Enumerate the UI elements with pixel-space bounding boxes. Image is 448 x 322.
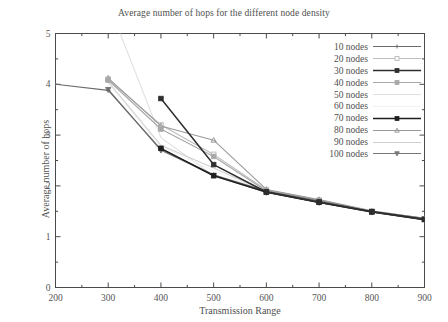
- legend-label: 70 nodes: [334, 113, 368, 123]
- legend-item-20-nodes: 20 nodes: [296, 53, 422, 65]
- legend-line-sample: [372, 77, 422, 88]
- legend-item-30-nodes: 30 nodes: [296, 65, 422, 77]
- legend-label: 40 nodes: [334, 78, 368, 88]
- legend-item-60-nodes: 60 nodes: [296, 100, 422, 112]
- series-marker: [53, 82, 58, 87]
- legend-label: 100 nodes: [329, 149, 368, 159]
- y-axis-label: Average number of hops: [35, 79, 53, 259]
- x-axis-label: Transmission Range: [55, 300, 425, 318]
- legend-line-sample: [372, 137, 422, 148]
- legend-item-100-nodes: 100 nodes: [296, 148, 422, 160]
- series-marker: [369, 210, 374, 215]
- series-marker: [159, 146, 164, 151]
- legend-line-sample: [372, 148, 422, 159]
- legend-label: 60 nodes: [334, 101, 368, 111]
- series-marker: [395, 57, 399, 61]
- y-tick-label: 5: [46, 29, 51, 39]
- legend-line-sample: [372, 113, 422, 124]
- series-marker: [317, 200, 322, 205]
- legend-line-sample: [372, 41, 422, 52]
- series-marker: [159, 127, 164, 132]
- legend-item-80-nodes: 80 nodes: [296, 124, 422, 136]
- chart-figure: Average number of hops for the different…: [0, 0, 448, 322]
- legend-item-40-nodes: 40 nodes: [296, 77, 422, 89]
- legend-label: 90 nodes: [334, 137, 368, 147]
- series-marker: [211, 173, 216, 178]
- series-marker: [264, 190, 269, 195]
- series-marker: [211, 154, 216, 159]
- series-marker: [211, 162, 216, 167]
- legend-label: 10 nodes: [334, 42, 368, 52]
- legend-line-sample: [372, 89, 422, 100]
- series-marker: [395, 69, 399, 73]
- legend-label: 80 nodes: [334, 125, 368, 135]
- legend-line-sample: [372, 125, 422, 136]
- legend-label: 50 nodes: [334, 90, 368, 100]
- legend-label: 30 nodes: [334, 66, 368, 76]
- series-marker: [395, 152, 399, 156]
- series-marker: [106, 78, 111, 83]
- y-tick-label: 0: [46, 283, 51, 293]
- chart-legend: 10 nodes20 nodes30 nodes40 nodes50 nodes…: [296, 41, 422, 160]
- legend-line-sample: [372, 65, 422, 76]
- legend-item-90-nodes: 90 nodes: [296, 136, 422, 148]
- legend-line-sample: [372, 101, 422, 112]
- legend-line-sample: [372, 53, 422, 64]
- series-marker: [422, 217, 427, 222]
- series-marker: [395, 116, 399, 120]
- series-marker: [395, 81, 399, 85]
- legend-label: 20 nodes: [334, 54, 368, 64]
- x-axis-label-text: Transmission Range: [199, 305, 281, 316]
- y-axis-label-text: Average number of hops: [40, 120, 51, 218]
- legend-item-10-nodes: 10 nodes: [296, 41, 422, 53]
- series-marker: [395, 45, 399, 49]
- series-marker: [159, 96, 164, 101]
- legend-item-50-nodes: 50 nodes: [296, 89, 422, 101]
- legend-item-70-nodes: 70 nodes: [296, 112, 422, 124]
